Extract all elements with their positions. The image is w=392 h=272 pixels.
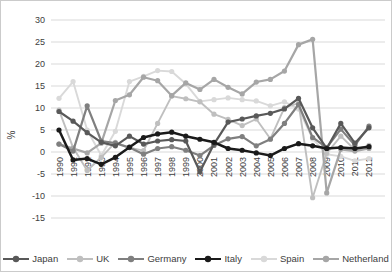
x-tick-label: 1995 (125, 157, 135, 177)
series-point-netherland (141, 75, 146, 80)
legend-label: Japan (32, 253, 58, 264)
series-point-japan (352, 141, 357, 146)
series-point-germany (254, 143, 259, 148)
series-point-spain (366, 156, 371, 161)
series-point-italy (310, 143, 315, 148)
series-point-uk (310, 195, 315, 200)
legend-item-italy: Italy (195, 253, 241, 264)
series-point-netherland (254, 79, 259, 84)
series-point-germany (155, 146, 160, 151)
y-tick-label: 15 (35, 81, 45, 91)
series-point-italy (85, 156, 90, 161)
series-point-spain (127, 79, 132, 84)
series-point-japan (183, 138, 188, 143)
series-point-italy (113, 155, 118, 160)
legend-item-germany: Germany (118, 253, 186, 264)
series-point-italy (225, 146, 230, 151)
series-point-netherland (155, 78, 160, 83)
x-tick-label: 2004 (252, 157, 262, 177)
series-point-japan (240, 116, 245, 121)
series-point-japan (254, 113, 259, 118)
legend-marker-icon (313, 254, 339, 264)
legend-item-netherland: Netherland (313, 253, 388, 264)
series-point-italy (169, 130, 174, 135)
legend-marker-icon (3, 254, 29, 264)
legend-marker-icon (67, 254, 93, 264)
series-point-japan (99, 140, 104, 145)
series-point-italy (141, 135, 146, 140)
series-point-netherland (225, 85, 230, 90)
y-tick-label: -10 (32, 191, 45, 201)
series-point-italy (183, 134, 188, 139)
series-point-italy (211, 140, 216, 145)
line-chart-figure: -15-10-5051015202530%1990199119921993199… (0, 0, 392, 272)
series-point-spain (169, 69, 174, 74)
series-point-spain (282, 99, 287, 104)
series-point-netherland (324, 190, 329, 195)
y-tick-label: 25 (35, 37, 45, 47)
legend-label: Germany (147, 253, 186, 264)
y-tick-label: -15 (32, 213, 45, 223)
series-point-japan (268, 111, 273, 116)
legend-item-uk: UK (67, 253, 109, 264)
series-point-spain (155, 68, 160, 73)
x-tick-label: 2002 (224, 157, 234, 177)
series-point-japan (141, 141, 146, 146)
series-point-germany (240, 134, 245, 139)
series-point-germany (197, 153, 202, 158)
chart-legend: JapanUKGermanyItalySpainNetherland (1, 253, 391, 264)
series-point-spain (240, 97, 245, 102)
series-point-spain (56, 96, 61, 101)
series-point-italy (240, 148, 245, 153)
series-point-italy (268, 153, 273, 158)
series-point-netherland (169, 93, 174, 98)
series-point-netherland (211, 77, 216, 82)
series-point-germany (183, 148, 188, 153)
series-point-spain (225, 95, 230, 100)
legend-label: Italy (224, 253, 241, 264)
y-axis-title: % (6, 130, 17, 139)
series-point-uk (183, 96, 188, 101)
series-point-netherland (127, 92, 132, 97)
y-tick-label: 0 (40, 147, 45, 157)
series-point-japan (85, 130, 90, 135)
series-point-italy (338, 145, 343, 150)
series-point-italy (324, 146, 329, 151)
x-tick-label: 2003 (238, 157, 248, 177)
series-point-netherland (183, 80, 188, 85)
x-tick-label: 2006 (280, 157, 290, 177)
series-point-italy (127, 145, 132, 150)
series-point-netherland (240, 91, 245, 96)
series-point-italy (197, 137, 202, 142)
series-point-spain (70, 79, 75, 84)
series-point-germany (225, 136, 230, 141)
series-point-uk (85, 168, 90, 173)
y-tick-label: 30 (35, 15, 45, 25)
series-point-uk (338, 134, 343, 139)
series-point-germany (268, 137, 273, 142)
y-tick-label: 10 (35, 103, 45, 113)
series-point-germany (56, 141, 61, 146)
y-tick-label: -5 (37, 169, 45, 179)
series-point-italy (99, 162, 104, 167)
series-point-germany (169, 144, 174, 149)
series-point-germany (70, 149, 75, 154)
x-tick-label: 1998 (167, 157, 177, 177)
legend-item-japan: Japan (3, 253, 58, 264)
series-point-japan (282, 106, 287, 111)
series-point-italy (296, 141, 301, 146)
series-point-italy (70, 157, 75, 162)
series-point-japan (113, 143, 118, 148)
legend-label: Spain (280, 253, 304, 264)
series-point-uk (324, 151, 329, 156)
series-point-netherland (310, 37, 315, 42)
series-point-netherland (85, 150, 90, 155)
series-point-germany (85, 103, 90, 108)
series-point-italy (155, 131, 160, 136)
series-point-spain (268, 103, 273, 108)
series-point-spain (352, 158, 357, 163)
series-point-japan (310, 125, 315, 130)
x-tick-label: 1996 (139, 157, 149, 177)
series-point-japan (197, 169, 202, 174)
y-tick-label: 20 (35, 59, 45, 69)
